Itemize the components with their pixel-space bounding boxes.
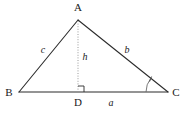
side-label-b: b bbox=[125, 44, 130, 55]
vertex-label-c: C bbox=[172, 86, 179, 98]
vertex-label-a: A bbox=[74, 1, 82, 13]
vertex-label-d: D bbox=[74, 96, 82, 108]
triangle-diagram-svg: A B C D a b c h bbox=[0, 0, 184, 114]
side-label-a: a bbox=[109, 97, 114, 108]
vertex-label-b: B bbox=[5, 86, 12, 98]
side-label-h: h bbox=[83, 51, 88, 62]
side-b-line bbox=[78, 20, 168, 92]
geometry-diagram: A B C D a b c h bbox=[0, 0, 184, 114]
side-c-line bbox=[19, 20, 78, 92]
side-label-c: c bbox=[41, 44, 46, 55]
right-angle-square-icon bbox=[78, 86, 84, 92]
